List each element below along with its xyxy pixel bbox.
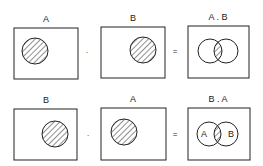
- set-b-circle: [42, 121, 68, 147]
- operator-dot: ·: [87, 131, 90, 140]
- set-a-circle: [111, 119, 137, 145]
- equals-sign: =: [173, 130, 178, 139]
- result-label: A . B: [208, 12, 227, 22]
- operand1-label: A: [43, 14, 49, 24]
- set-b-circle: [130, 37, 156, 63]
- operand1-label: B: [43, 95, 49, 105]
- operand2-label: A: [130, 94, 136, 104]
- venn-commutativity-diagram: A · B = A . B B · A = B . A A B: [0, 0, 263, 166]
- equals-sign: =: [173, 47, 178, 56]
- set-a-circle: [22, 38, 48, 64]
- circle-label-a: A: [201, 129, 207, 139]
- result-label: B . A: [208, 94, 227, 104]
- row-1: A · B = A . B: [14, 12, 249, 79]
- row-2: B · A = B . A A B: [14, 94, 250, 160]
- operand2-label: B: [130, 13, 136, 23]
- operator-dot: ·: [86, 48, 89, 57]
- circle-label-b: B: [228, 129, 234, 139]
